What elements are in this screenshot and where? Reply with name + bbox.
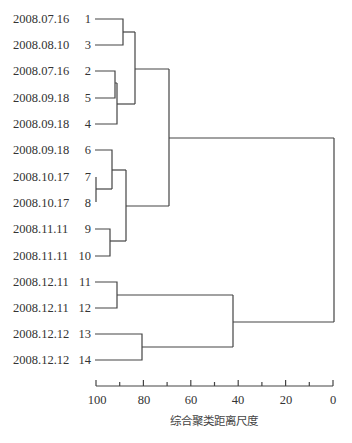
dendrogram-branches [95,19,334,360]
x-tick-label: 80 [138,393,151,408]
x-axis-title: 综合聚类距离尺度 [170,412,258,428]
x-tick-label: 100 [88,393,107,408]
x-tick-label: 40 [232,393,245,408]
x-tick-label: 20 [280,393,293,408]
x-tick-label: 0 [330,393,336,408]
dendrogram-plot [0,0,352,443]
x-tick-label: 60 [185,393,198,408]
x-axis [96,380,333,386]
